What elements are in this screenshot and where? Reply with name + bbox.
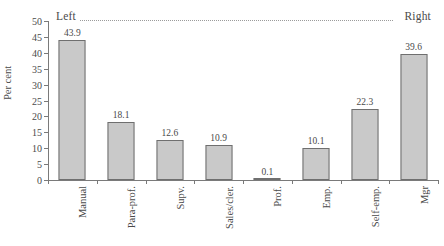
bar-value-label: 43.9: [64, 28, 81, 38]
x-category-label: Sales/cler.: [224, 186, 235, 229]
y-tick-label: 30: [32, 79, 48, 90]
x-tick-mark: [243, 180, 244, 184]
bar-slot: 12.6: [146, 21, 195, 180]
x-tick-mark: [194, 180, 195, 184]
bar-value-label: 22.3: [357, 97, 374, 107]
x-tick-mark: [292, 180, 293, 184]
bar-value-label: 10.9: [210, 133, 227, 143]
x-tick-mark: [438, 180, 439, 184]
bar-slot: 39.6: [389, 21, 438, 180]
y-axis-title: Per cent: [2, 66, 13, 100]
bar-value-label: 39.6: [405, 42, 422, 52]
x-category-label: Self-emp.: [370, 186, 381, 227]
bar[interactable]: [59, 40, 86, 180]
x-tick-mark: [341, 180, 342, 184]
bar[interactable]: [400, 54, 427, 180]
bar[interactable]: [351, 109, 378, 180]
x-category-label: Prof.: [272, 186, 283, 207]
y-tick-label: 40: [32, 47, 48, 58]
y-tick-label: 25: [32, 95, 48, 106]
bar-value-label: 0.1: [261, 167, 273, 177]
y-tick-label: 20: [32, 111, 48, 122]
x-category-label: Supv.: [175, 186, 186, 210]
bar-slot: 22.3: [341, 21, 390, 180]
bar-slot: 10.9: [194, 21, 243, 180]
bar[interactable]: [254, 178, 281, 180]
x-category-label: Mgr: [419, 186, 430, 204]
y-tick-label: 35: [32, 63, 48, 74]
x-tick-mark: [97, 180, 98, 184]
bar-slot: 18.1: [97, 21, 146, 180]
x-category-label: Emp.: [321, 186, 332, 208]
bar-slot: 43.9: [48, 21, 97, 180]
y-tick-label: 50: [32, 16, 48, 27]
x-category-label: Manual: [77, 186, 88, 218]
bar[interactable]: [156, 140, 183, 180]
bar-value-label: 10.1: [308, 136, 325, 146]
bar-slot: 10.1: [292, 21, 341, 180]
y-tick-label: 0: [37, 175, 48, 186]
y-tick-label: 10: [32, 143, 48, 154]
y-tick-label: 5: [37, 159, 48, 170]
bar[interactable]: [303, 148, 330, 180]
bar-slot: 0.1: [243, 21, 292, 180]
plot-area: 05101520253035404550 43.918.112.610.90.1…: [48, 21, 438, 180]
x-category-label: Para-prof.: [126, 186, 137, 228]
x-tick-mark: [389, 180, 390, 184]
bar[interactable]: [108, 122, 135, 180]
bar[interactable]: [205, 145, 232, 180]
bar-value-label: 12.6: [162, 128, 179, 138]
x-tick-mark: [146, 180, 147, 184]
bar-chart: Left Right Per cent 05101520253035404550…: [0, 0, 444, 246]
y-tick-label: 45: [32, 31, 48, 42]
y-tick-label: 15: [32, 127, 48, 138]
bar-value-label: 18.1: [113, 110, 130, 120]
x-tick-mark: [48, 180, 49, 184]
